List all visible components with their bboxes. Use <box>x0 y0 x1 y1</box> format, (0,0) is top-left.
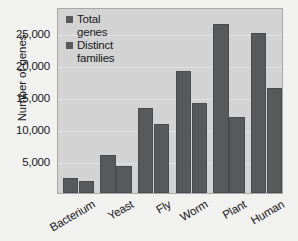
legend-item-total-genes: Total genes <box>66 13 129 38</box>
legend-item-distinct-families: Distinct families <box>66 39 129 64</box>
legend-label: Distinct families <box>77 39 129 64</box>
bar <box>192 103 208 193</box>
x-axis-tick-label: Plant <box>220 198 248 221</box>
x-axis-tick-label: Yeast <box>106 198 136 222</box>
legend-swatch-icon <box>66 16 73 23</box>
bar <box>251 33 267 193</box>
y-axis-tick-label: 25,000 <box>16 28 50 40</box>
bar <box>213 24 229 193</box>
plot-area: Total genes Distinct families <box>57 8 283 194</box>
x-axis-tick-labels: BacteriumYeastFlyWormPlantHuman <box>57 194 283 241</box>
bar <box>154 124 170 193</box>
x-axis-tick-label: Fly <box>154 198 173 216</box>
bar <box>267 88 283 193</box>
x-axis-tick-label: Worm <box>178 198 210 223</box>
y-axis-tick-label: 10,000 <box>16 124 50 136</box>
bar <box>116 166 132 193</box>
bar <box>100 155 116 193</box>
bar <box>229 117 245 193</box>
y-axis-tick-label: 15,000 <box>16 92 50 104</box>
y-axis-tick-label: 5,000 <box>22 156 50 168</box>
y-axis-tick-labels: 5,00010,00015,00020,00025,000 <box>0 0 54 241</box>
x-axis-tick-label: Bacterium <box>48 198 97 233</box>
legend-swatch-icon <box>66 42 73 49</box>
bar <box>79 181 95 193</box>
chart-legend: Total genes Distinct families <box>66 13 129 65</box>
chart-figure: Number of genes 5,00010,00015,00020,0002… <box>0 0 298 241</box>
legend-label: Total genes <box>77 13 129 38</box>
y-axis-tick-label: 20,000 <box>16 60 50 72</box>
bar <box>138 108 154 193</box>
x-axis-tick-label: Human <box>248 198 285 226</box>
bar <box>176 71 192 193</box>
bar <box>63 178 79 193</box>
